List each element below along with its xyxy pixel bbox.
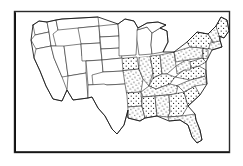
- state-colorado: [81, 43, 102, 61]
- state-minnesota: [118, 19, 138, 56]
- state-wisconsin: [137, 27, 152, 55]
- state-kansas: [102, 58, 123, 72]
- state-alabama: [155, 95, 170, 117]
- state-mississippi: [142, 96, 157, 118]
- state-wyoming: [78, 26, 100, 44]
- state-north-dakota: [99, 24, 119, 37]
- state-texas: [88, 84, 128, 134]
- state-new-jersey: [203, 48, 208, 59]
- state-louisiana: [126, 106, 145, 121]
- state-ohio: [160, 52, 176, 74]
- us-map: [0, 0, 243, 166]
- state-florida: [168, 114, 202, 143]
- state-maryland: [190, 58, 206, 68]
- map-figure: [0, 0, 243, 166]
- state-south-dakota: [100, 36, 120, 49]
